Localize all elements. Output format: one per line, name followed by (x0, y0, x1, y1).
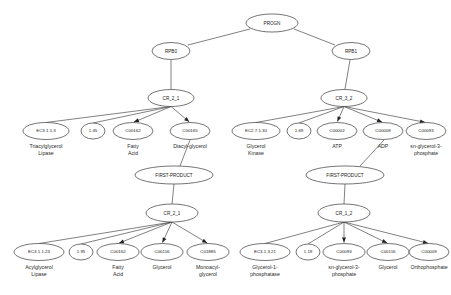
node-layer: PROGNRPB0RPB1CR_2_1CR_3_2FIRST-PRODUCTFI… (14, 14, 449, 261)
node-ec-3-1-1-3-label: EC3.1.1.3 (36, 128, 56, 133)
edge-cr_2_1_bot-to-ec-3-1-1-23 (39, 222, 172, 244)
node-c00008-caption-line: ADP (378, 143, 389, 149)
node-c00162-a[interactable]: C00162 (113, 123, 153, 140)
node-ec-3-1-1-23-caption-line: Acylglycerol (25, 264, 53, 270)
node-root-label: PROGN (264, 21, 281, 26)
pathway-diagram: PROGNRPB0RPB1CR_2_1CR_3_2FIRST-PRODUCTFI… (0, 0, 451, 295)
node-fp_right-label: FIRST-PRODUCT (326, 173, 363, 178)
node-n-1-19[interactable]: 1.19 (296, 244, 320, 260)
node-c00002-label: C00002 (329, 128, 345, 133)
node-c00162-b-label: C00162 (110, 249, 126, 254)
node-ec-3-1-1-23-caption-line: Lipase (31, 271, 46, 277)
node-ec-3-1-1-3-caption-line: Triacylglycerol (30, 143, 63, 149)
node-cr_3_2_top-label: CR_3_2 (336, 96, 353, 101)
node-ec-3-1-1-3[interactable]: EC3.1.1.3 (23, 123, 69, 140)
node-n-1-69-label: 1.69 (295, 128, 304, 133)
node-cr_2_1_bot[interactable]: CR_2_1 (146, 204, 198, 222)
node-c00162-a-caption-line: Fatty (127, 143, 139, 149)
arrowhead-c00162-a (134, 118, 139, 122)
node-n-1-69[interactable]: 1.69 (287, 123, 311, 139)
edge-cr_3_2_top-to-c00093-a (344, 107, 425, 123)
node-c00116-b-label: C00116 (380, 249, 396, 254)
node-n-1-45-label: 1.45 (89, 128, 98, 133)
node-c00009-label: C00009 (421, 249, 437, 254)
node-c00093-a-label: C00093 (418, 128, 434, 133)
pathway-graph-svg: PROGNRPB0RPB1CR_2_1CR_3_2FIRST-PRODUCTFI… (0, 0, 451, 295)
node-c00116-a[interactable]: C00116 (141, 244, 183, 261)
node-c00162-b-caption-line: Fatty (112, 264, 124, 270)
node-n-1-45[interactable]: 1.45 (81, 123, 105, 139)
arrowhead-c01885 (202, 239, 207, 243)
node-c00165[interactable]: C00165 (170, 123, 210, 140)
node-c00162-a-label: C00162 (125, 128, 141, 133)
node-ec-3-1-3-21-label: EC3.1.3.21 (254, 249, 277, 254)
node-c00165-caption-line: Diacyl-glycerol (173, 143, 207, 149)
node-cr_1_2_bot[interactable]: CR_1_2 (318, 204, 370, 222)
node-ec-3-1-3-21-caption-line: Glycerol-1- (252, 264, 278, 270)
node-n-1-19-label: 1.19 (304, 249, 313, 254)
rpb1-to-cr32 (345, 60, 350, 89)
node-c00093-b[interactable]: C00093 (323, 244, 365, 261)
edge-cr_2_1_bot-to-n-1-95 (81, 222, 172, 244)
fpright-to-cr12 (344, 184, 345, 204)
node-c00002-caption-line: ATP (332, 143, 342, 149)
node-ec-3-1-1-23[interactable]: EC3.1.1.23 (14, 244, 64, 261)
node-ec-2-7-1-30-caption-line: Kinase (248, 150, 264, 156)
edge-cr_1_2_bot-to-c00009 (344, 222, 428, 243)
arrowhead-c00093-b (342, 238, 346, 243)
node-c00165-label: C00165 (182, 128, 198, 133)
node-root[interactable]: PROGN (246, 14, 298, 32)
node-c00093-b-label: C00093 (336, 249, 352, 254)
node-rpb0[interactable]: RPB0 (152, 43, 190, 60)
node-c00116-a-label: C00116 (154, 249, 170, 254)
node-ec-3-1-3-21-caption-line: phosphatase (250, 271, 280, 277)
node-ec-3-1-1-3-caption-line: Lipase (38, 150, 53, 156)
node-rpb0-label: RPB0 (165, 49, 177, 54)
node-c00008[interactable]: C00008 (363, 123, 403, 140)
edge-cr_2_1_bot-to-c01885 (172, 222, 207, 243)
node-c00002[interactable]: C00002 (317, 123, 357, 140)
node-c00093-a[interactable]: C00093 (406, 123, 446, 140)
node-ec-3-1-1-23-label: EC3.1.1.23 (28, 249, 51, 254)
node-c00008-label: C00008 (375, 128, 391, 133)
node-c00093-b-caption-line: sn-glycerol-3- (328, 264, 360, 270)
node-ec-2-7-1-30-caption-line: Glycerol (246, 143, 265, 149)
node-rpb1-label: RPB1 (345, 49, 357, 54)
node-c00093-a-caption-line: sn-glycerol-3- (410, 143, 442, 149)
node-c00093-b-caption-line: phosphate (332, 271, 356, 277)
node-rpb1[interactable]: RPB1 (332, 43, 370, 60)
node-fp_left[interactable]: FIRST-PRODUCT (135, 166, 213, 184)
node-cr_1_2_bot-label: CR_1_2 (336, 211, 353, 216)
progn-to-rpb1 (294, 29, 335, 45)
node-cr_2_1_top-label: CR_2_1 (163, 96, 180, 101)
node-c01885[interactable]: C01885 (187, 244, 229, 261)
node-n-1-95[interactable]: 1.95 (69, 244, 93, 260)
node-c01885-label: C01885 (200, 249, 216, 254)
edge-cr_1_2_bot-to-ec-3-1-3-21 (265, 222, 344, 244)
node-c00162-a-caption-line: Acid (128, 150, 138, 156)
node-c00009[interactable]: C00009 (409, 244, 449, 261)
edge-cr_3_2_top-to-c00008 (344, 107, 382, 123)
fpleft-to-cr21 (172, 184, 174, 204)
arrowhead-c00116-a (162, 237, 166, 242)
progn-to-rpb0 (188, 29, 250, 45)
node-c00093-a-caption-line: phosphate (414, 150, 438, 156)
node-fp_left-label: FIRST-PRODUCT (155, 173, 192, 178)
node-cr_3_2_top[interactable]: CR_3_2 (321, 90, 367, 107)
edge-cr_1_2_bot-to-c00116-b (344, 222, 387, 243)
arrowhead-c00162-b (119, 239, 124, 243)
node-c00009-caption-line: Orthophosphate (410, 264, 447, 270)
node-ec-3-1-3-21[interactable]: EC3.1.3.21 (240, 244, 290, 261)
arrowhead-c00002 (337, 116, 341, 121)
node-c00162-b-caption-line: Acid (113, 271, 123, 277)
node-c00116-b[interactable]: C00116 (367, 244, 409, 261)
node-ec-2-7-1-30[interactable]: EC2.7.1.30 (232, 123, 280, 140)
node-n-1-95-label: 1.95 (77, 249, 86, 254)
arrowhead-c00008 (377, 118, 382, 122)
node-c00116-a-caption-line: Glycerol (152, 264, 171, 270)
node-cr_2_1_top[interactable]: CR_2_1 (148, 90, 194, 107)
node-c01885-caption-line: glycerol (199, 271, 217, 277)
node-fp_right[interactable]: FIRST-PRODUCT (306, 166, 384, 184)
node-c00116-b-caption-line: Glycerol (378, 264, 397, 270)
node-c00162-b[interactable]: C00162 (97, 244, 139, 261)
